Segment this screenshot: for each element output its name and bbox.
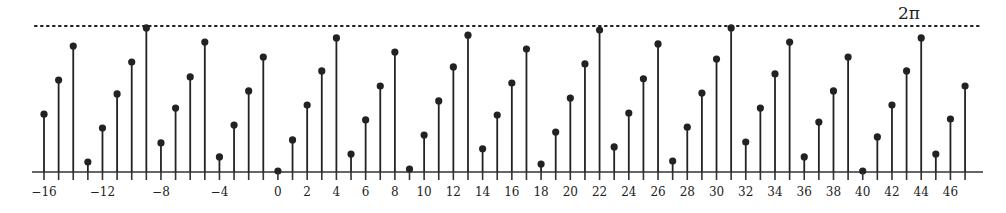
x-tick-label: 18 <box>533 185 548 199</box>
stem-marker <box>713 55 720 62</box>
x-tick-label: 44 <box>914 185 930 199</box>
stem-plot: 2π −16−12−8−4024681012141618202224262830… <box>0 0 1006 213</box>
stem-marker <box>435 97 442 104</box>
stem-marker <box>377 82 384 89</box>
stem-marker <box>245 87 252 94</box>
stem-marker <box>742 138 749 145</box>
stem-marker <box>523 45 530 52</box>
x-tick-label: 12 <box>446 185 461 199</box>
x-axis-ticks: −16−12−8−4024681012141618202224262830323… <box>31 172 965 199</box>
stem-marker <box>537 160 544 167</box>
stem-marker <box>669 157 676 164</box>
stem-marker <box>815 118 822 125</box>
stem-marker <box>918 34 925 41</box>
stems-group <box>40 24 968 174</box>
x-tick-label: 36 <box>797 185 812 199</box>
stem-marker <box>84 158 91 165</box>
stem-marker <box>961 82 968 89</box>
x-tick-label: −4 <box>211 185 229 199</box>
stem-marker <box>421 131 428 138</box>
stem-marker <box>845 53 852 60</box>
stem-marker <box>450 63 457 70</box>
stem-marker <box>625 109 632 116</box>
x-tick-label: 16 <box>504 185 519 199</box>
stem-marker <box>801 153 808 160</box>
x-tick-label: −12 <box>90 185 115 199</box>
stem-marker <box>318 67 325 74</box>
stem-marker <box>903 67 910 74</box>
x-tick-label: 46 <box>943 185 958 199</box>
stem-marker <box>728 24 735 31</box>
x-tick-label: −16 <box>31 185 56 199</box>
x-tick-label: 22 <box>592 185 607 199</box>
stem-marker <box>932 151 939 158</box>
stem-marker <box>114 90 121 97</box>
stem-marker <box>304 101 311 108</box>
x-tick-label: 20 <box>563 185 578 199</box>
x-tick-label: 8 <box>391 185 399 199</box>
stem-marker <box>260 53 267 60</box>
x-tick-label: 30 <box>709 185 724 199</box>
stem-marker <box>347 151 354 158</box>
x-tick-label: 6 <box>362 185 370 199</box>
stem-marker <box>216 153 223 160</box>
stem-marker <box>654 40 661 47</box>
stem-marker <box>391 48 398 55</box>
stem-marker <box>494 111 501 118</box>
stem-marker <box>99 124 106 131</box>
stem-marker <box>698 89 705 96</box>
stem-marker <box>611 143 618 150</box>
stem-marker <box>684 124 691 131</box>
stem-marker <box>771 70 778 77</box>
stem-marker <box>333 34 340 41</box>
x-tick-label: 32 <box>738 185 753 199</box>
x-tick-label: 38 <box>826 185 841 199</box>
x-tick-label: 14 <box>475 185 491 199</box>
stem-marker <box>143 24 150 31</box>
x-tick-label: 2 <box>303 185 311 199</box>
stem-marker <box>786 39 793 46</box>
stem-marker <box>552 128 559 135</box>
stem-marker <box>172 104 179 111</box>
x-tick-label: 28 <box>680 185 695 199</box>
x-tick-label: 0 <box>274 185 282 199</box>
x-tick-label: 4 <box>333 185 341 199</box>
stem-marker <box>508 79 515 86</box>
stem-marker <box>406 165 413 172</box>
stem-marker <box>55 76 62 83</box>
stem-marker <box>70 42 77 49</box>
stem-marker <box>888 101 895 108</box>
stem-marker <box>230 121 237 128</box>
two-pi-label: 2π <box>898 3 920 23</box>
stem-marker <box>479 145 486 152</box>
x-tick-label: 10 <box>416 185 431 199</box>
stem-marker <box>757 104 764 111</box>
stem-marker <box>201 39 208 46</box>
x-tick-label: 42 <box>884 185 899 199</box>
stem-marker <box>596 26 603 33</box>
x-tick-label: 34 <box>767 185 783 199</box>
stem-marker <box>289 136 296 143</box>
x-tick-label: 40 <box>855 185 870 199</box>
stem-marker <box>947 115 954 122</box>
x-tick-label: −8 <box>152 185 170 199</box>
stem-marker <box>40 111 47 118</box>
stem-marker <box>874 133 881 140</box>
stem-marker <box>581 60 588 67</box>
stem-marker <box>187 73 194 80</box>
stem-marker <box>830 87 837 94</box>
x-tick-label: 24 <box>621 185 637 199</box>
stem-marker <box>567 95 574 102</box>
stem-marker <box>640 75 647 82</box>
stem-marker <box>157 139 164 146</box>
stem-marker <box>362 116 369 123</box>
stem-marker <box>464 32 471 39</box>
x-tick-label: 26 <box>650 185 665 199</box>
stem-marker <box>128 58 135 65</box>
